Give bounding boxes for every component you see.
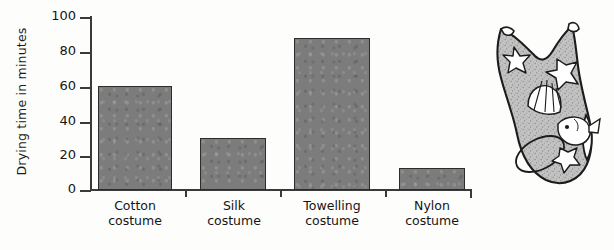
- x-label-silk-line2: costume: [190, 213, 278, 228]
- swimming-costume-illustration: [468, 2, 614, 214]
- y-tick-0: [80, 190, 91, 192]
- bar-silk-costume[interactable]: [200, 138, 266, 190]
- x-label-nylon-line2: costume: [388, 213, 476, 228]
- y-tick-label-0: 0: [36, 181, 76, 196]
- x-label-cotton-line2: costume: [90, 213, 180, 228]
- x-label-cotton-costume: Cotton costume: [90, 198, 180, 228]
- bar-towelling-costume[interactable]: [294, 38, 370, 190]
- costume-right-strap: [568, 23, 579, 32]
- x-label-nylon-line1: Nylon: [388, 198, 476, 213]
- chart-plot-area: Drying time in minutes 100 80 60 40 20 0…: [0, 0, 470, 250]
- y-tick-80: [80, 52, 91, 54]
- y-axis-title: Drying time in minutes: [14, 12, 29, 192]
- y-tick-100: [80, 17, 91, 19]
- y-axis-line: [90, 16, 92, 191]
- x-tick-separator-3: [385, 190, 387, 197]
- fish-icon: [558, 117, 600, 145]
- y-tick-60: [80, 87, 91, 89]
- x-tick-separator-1: [185, 190, 187, 197]
- x-label-towelling-line1: Towelling: [286, 198, 378, 213]
- x-label-towelling-line2: costume: [286, 213, 378, 228]
- y-tick-label-20: 20: [36, 147, 76, 162]
- x-label-towelling-costume: Towelling costume: [286, 198, 378, 228]
- y-tick-20: [80, 156, 91, 158]
- x-label-silk-line1: Silk: [190, 198, 278, 213]
- x-label-silk-costume: Silk costume: [190, 198, 278, 228]
- bar-nylon-costume[interactable]: [399, 168, 465, 190]
- y-tick-label-40: 40: [36, 113, 76, 128]
- bar-chart-screenshot: Drying time in minutes 100 80 60 40 20 0…: [0, 0, 614, 250]
- x-tick-separator-2: [280, 190, 282, 197]
- y-tick-label-100: 100: [36, 8, 76, 23]
- x-label-nylon-costume: Nylon costume: [388, 198, 476, 228]
- bar-cotton-costume[interactable]: [98, 86, 172, 190]
- y-tick-label-60: 60: [36, 78, 76, 93]
- x-label-cotton-line1: Cotton: [90, 198, 180, 213]
- y-tick-40: [80, 122, 91, 124]
- y-tick-label-80: 80: [36, 43, 76, 58]
